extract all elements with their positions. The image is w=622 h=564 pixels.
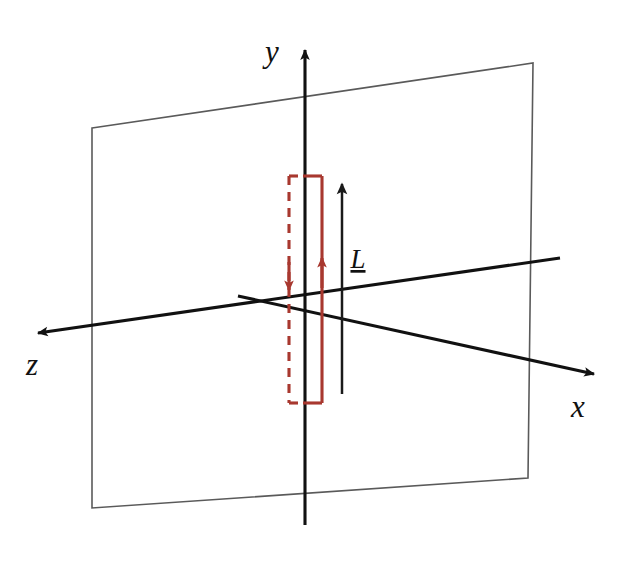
- axis-label-x: x: [570, 389, 585, 424]
- figure-canvas: y z x L: [0, 0, 622, 564]
- axis-label-z: z: [25, 347, 38, 382]
- vector-L-label: L: [349, 244, 365, 274]
- axis-z-line: [38, 258, 560, 333]
- axis-label-y: y: [262, 34, 279, 69]
- physics-diagram: y z x L: [0, 0, 622, 564]
- axis-x-line: [238, 296, 594, 374]
- xy-plane: [92, 63, 533, 508]
